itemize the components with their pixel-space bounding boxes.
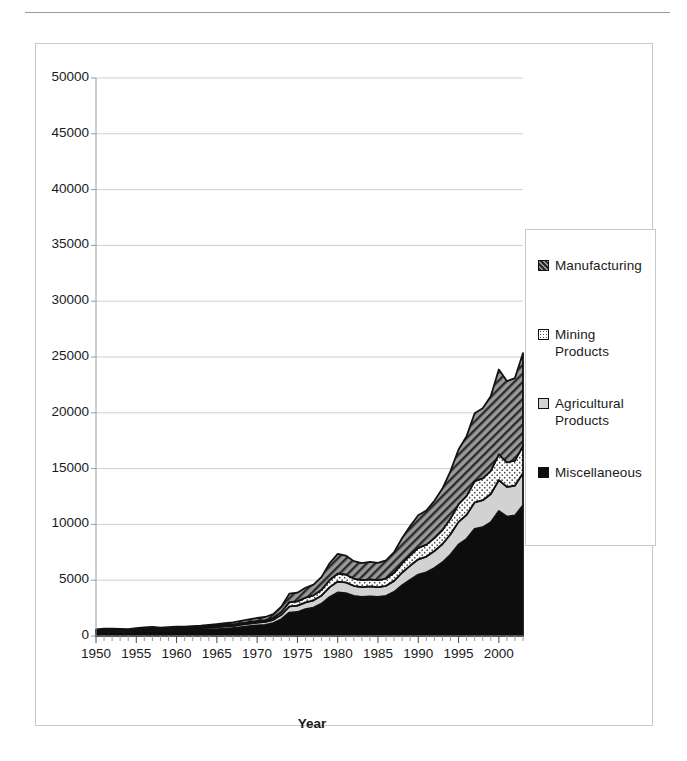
y-tick-label: 0 xyxy=(29,627,89,642)
legend-swatch-dotted-white-icon xyxy=(538,329,549,340)
legend-label: Miscellaneous xyxy=(555,464,642,481)
y-tick-label: 40000 xyxy=(29,181,89,196)
top-horizontal-rule xyxy=(25,12,670,13)
chart-figure-frame: 5000045000400003500030000250002000015000… xyxy=(35,43,653,726)
y-tick-label: 35000 xyxy=(29,236,89,251)
x-tick-label: 1995 xyxy=(436,646,482,661)
x-axis-title: Year xyxy=(252,716,372,731)
legend-item-agricultural-products[interactable]: Agricultural Products xyxy=(538,395,624,429)
y-tick-label: 15000 xyxy=(29,460,89,475)
x-tick-label: 2000 xyxy=(476,646,522,661)
x-tick-label: 1955 xyxy=(113,646,159,661)
x-tick-label: 1960 xyxy=(154,646,200,661)
legend-swatch-light-gray-icon xyxy=(538,398,549,409)
x-tick-label: 1950 xyxy=(73,646,119,661)
y-tick-label: 25000 xyxy=(29,348,89,363)
y-tick-label: 5000 xyxy=(29,571,89,586)
legend-item-manufacturing[interactable]: Manufacturing xyxy=(538,257,642,274)
x-tick-label: 1980 xyxy=(315,646,361,661)
x-tick-label: 1975 xyxy=(274,646,320,661)
y-tick-label: 20000 xyxy=(29,404,89,419)
area-series-group xyxy=(96,353,523,636)
legend-item-mining-products[interactable]: Mining Products xyxy=(538,326,609,360)
legend-label: Agricultural Products xyxy=(555,395,624,429)
chart-legend: ManufacturingMining ProductsAgricultural… xyxy=(525,229,656,546)
x-tick-label: 1965 xyxy=(194,646,240,661)
x-tick-label: 1970 xyxy=(234,646,280,661)
y-tick-label: 50000 xyxy=(29,69,89,84)
legend-label: Manufacturing xyxy=(555,257,642,274)
legend-label: Mining Products xyxy=(555,326,609,360)
y-tick-label: 45000 xyxy=(29,125,89,140)
y-tick-label: 30000 xyxy=(29,292,89,307)
x-tick-label: 1990 xyxy=(395,646,441,661)
x-tick-label: 1985 xyxy=(355,646,401,661)
legend-swatch-solid-black-icon xyxy=(538,467,549,478)
legend-swatch-diagonal-hatch-icon xyxy=(538,260,549,271)
legend-item-miscellaneous[interactable]: Miscellaneous xyxy=(538,464,642,481)
y-tick-label: 10000 xyxy=(29,515,89,530)
